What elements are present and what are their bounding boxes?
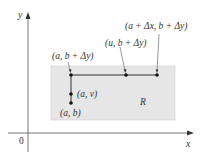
point-u-bdy	[124, 73, 128, 77]
point-a-b	[69, 101, 73, 105]
point-adx-bdy	[155, 73, 159, 77]
label-a-bdy: (a, b + Δy)	[52, 51, 94, 62]
y-axis-arrow-icon	[26, 12, 31, 19]
region-label: R	[139, 97, 146, 107]
point-a-bdy	[69, 73, 73, 77]
y-axis-label: y	[17, 10, 23, 20]
origin-label: 0	[19, 136, 24, 146]
label-a-b: (a, b)	[60, 108, 81, 119]
x-axis-arrow-icon	[187, 131, 194, 136]
label-u-bdy: (u, b + Δy)	[105, 38, 147, 49]
x-axis-label: x	[185, 139, 191, 149]
diagram-svg: y x 0 R (a, b) (a, v) (a, b + Δy) (u, b …	[0, 0, 203, 159]
leader-adx-bdy	[157, 34, 159, 71]
label-adx-bdy: (a + Δx, b + Δy)	[125, 21, 187, 32]
label-a-v: (a, v)	[77, 89, 97, 100]
diagram-canvas: y x 0 R (a, b) (a, v) (a, b + Δy) (u, b …	[0, 0, 203, 159]
point-a-v	[69, 92, 73, 96]
